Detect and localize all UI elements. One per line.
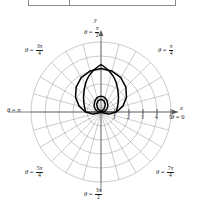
y-axis-label: y xyxy=(94,16,97,23)
radial-tick-5: 5 xyxy=(169,114,172,120)
figure-root: θ = 0 θ = π4 θ = π2 θ = 3π4 θ = π θ = 5π… xyxy=(0,0,206,217)
radial-tick-2: 2 xyxy=(127,114,130,120)
table-column-divider xyxy=(69,0,70,5)
radial-tick-3: 3 xyxy=(141,114,144,120)
radial-tick-1: 1 xyxy=(113,114,116,120)
angle-label-theta-pi-4: θ = π4 xyxy=(158,44,174,57)
angle-label-theta-3pi-2: θ = 3π2 xyxy=(84,188,103,201)
cropped-table-fragment xyxy=(28,0,176,6)
radial-tick-4: 4 xyxy=(155,114,158,120)
angle-label-theta-5pi-4: θ = 5π4 xyxy=(25,166,44,179)
angle-label-theta-0: θ = 0 xyxy=(171,114,184,121)
angle-label-theta-pi-2: θ = π2 xyxy=(84,26,100,39)
angle-label-theta-3pi-4: θ = 3π4 xyxy=(25,44,44,57)
x-axis-label: x xyxy=(180,104,183,111)
angle-label-theta-pi: θ = π xyxy=(7,107,20,114)
angle-label-theta-7pi-4: θ = 7π4 xyxy=(156,166,175,179)
